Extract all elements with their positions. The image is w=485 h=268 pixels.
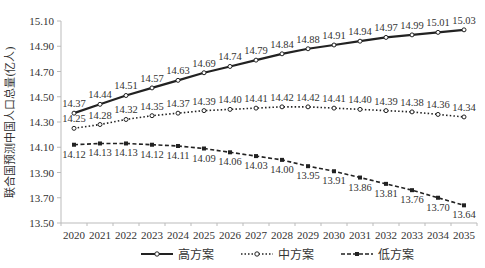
data-label: 14.39 — [192, 96, 216, 107]
x-tick-label: 2034 — [427, 229, 450, 241]
data-point — [332, 106, 336, 110]
data-label: 14.13 — [114, 147, 138, 158]
legend-label-low: 低方案 — [378, 245, 414, 262]
data-label: 14.57 — [140, 73, 164, 84]
data-label: 14.11 — [166, 150, 189, 161]
x-tick-label: 2022 — [115, 229, 137, 241]
x-axis: 2020202120222023202420252026202720282029… — [61, 223, 477, 241]
data-label: 14.03 — [244, 160, 268, 171]
x-tick-label: 2027 — [245, 229, 268, 241]
y-tick-label: 13.90 — [29, 167, 54, 179]
data-point — [462, 203, 466, 207]
data-point — [254, 58, 258, 62]
data-point — [98, 141, 102, 145]
data-point — [410, 33, 414, 37]
x-tick-label: 2031 — [349, 229, 371, 241]
data-label: 14.79 — [244, 45, 268, 56]
data-label: 13.76 — [400, 194, 424, 205]
series-low: 14.1214.1314.1314.1214.1114.0914.0614.03… — [62, 141, 476, 220]
data-point — [98, 123, 102, 127]
x-tick-label: 2033 — [401, 229, 424, 241]
series-layer: 14.3714.4414.5114.5714.6314.6914.7414.79… — [62, 15, 476, 220]
x-tick-label: 2026 — [219, 229, 242, 241]
x-tick-label: 2030 — [323, 229, 346, 241]
data-point — [358, 176, 362, 180]
data-label: 14.84 — [270, 39, 294, 50]
data-point — [306, 164, 310, 168]
data-label: 14.94 — [348, 26, 372, 37]
x-tick-label: 2020 — [63, 229, 86, 241]
legend: 高方案 中方案 低方案 — [140, 245, 414, 262]
data-point — [228, 150, 232, 154]
data-point — [72, 126, 76, 130]
data-label: 13.70 — [426, 202, 450, 213]
data-label: 14.35 — [140, 101, 164, 112]
data-point — [358, 107, 362, 111]
x-tick-label: 2035 — [453, 229, 476, 241]
y-tick-label: 14.70 — [29, 66, 54, 78]
data-label: 13.86 — [348, 182, 372, 193]
data-label: 14.06 — [218, 156, 242, 167]
data-label: 14.37 — [166, 98, 190, 109]
data-point — [384, 109, 388, 113]
y-tick-label: 15.10 — [29, 15, 54, 27]
data-label: 13.95 — [296, 170, 320, 181]
data-point — [280, 52, 284, 56]
data-label: 14.37 — [62, 98, 86, 109]
data-label: 14.51 — [114, 80, 138, 91]
data-label: 14.12 — [140, 149, 164, 160]
data-label: 14.12 — [62, 149, 86, 160]
line-chart: 15.1014.9014.7014.5014.3014.1013.9013.70… — [0, 0, 485, 268]
y-axis: 15.1014.9014.7014.5014.3014.1013.9013.70… — [29, 15, 61, 229]
data-label: 14.42 — [270, 92, 294, 103]
y-tick-label: 13.70 — [29, 192, 54, 204]
data-label: 14.13 — [88, 147, 112, 158]
solid-line-circle-icon — [140, 249, 174, 259]
data-point — [462, 115, 466, 119]
data-point — [202, 109, 206, 113]
y-tick-label: 13.50 — [29, 217, 54, 229]
legend-label-high: 高方案 — [178, 245, 214, 262]
data-point — [124, 93, 128, 97]
data-label: 14.28 — [88, 110, 112, 121]
data-label: 14.40 — [348, 94, 372, 105]
data-point — [124, 117, 128, 121]
dashed-line-square-icon — [340, 249, 374, 259]
data-label: 14.25 — [62, 113, 86, 124]
data-label: 15.03 — [452, 15, 476, 26]
x-tick-label: 2023 — [141, 229, 164, 241]
data-label: 14.91 — [322, 30, 346, 41]
data-label: 14.74 — [218, 51, 242, 62]
y-axis-label: 联合国预测中国人口总量(亿人) — [3, 46, 17, 198]
y-tick-label: 14.10 — [29, 141, 54, 153]
data-point — [72, 143, 76, 147]
data-point — [332, 169, 336, 173]
data-label: 14.09 — [192, 153, 216, 164]
data-point — [150, 114, 154, 118]
x-tick-label: 2024 — [167, 229, 190, 241]
data-point — [280, 158, 284, 162]
data-label: 14.99 — [400, 20, 424, 31]
data-point — [150, 86, 154, 90]
data-label: 14.34 — [452, 102, 476, 113]
data-label: 14.41 — [322, 93, 346, 104]
data-label: 13.81 — [374, 188, 398, 199]
data-point — [150, 143, 154, 147]
data-label: 14.42 — [296, 92, 320, 103]
data-point — [384, 182, 388, 186]
data-label: 14.38 — [400, 97, 424, 108]
data-label: 14.69 — [192, 58, 216, 69]
data-label: 13.91 — [322, 175, 346, 186]
x-tick-label: 2032 — [375, 229, 397, 241]
legend-label-mid: 中方案 — [278, 245, 314, 262]
data-point — [462, 28, 466, 32]
y-tick-label: 14.90 — [29, 40, 54, 52]
data-label: 14.36 — [426, 99, 450, 110]
x-tick-label: 2025 — [193, 229, 216, 241]
data-label: 13.64 — [452, 209, 476, 220]
x-tick-label: 2028 — [271, 229, 294, 241]
data-label: 14.39 — [374, 96, 398, 107]
data-label: 14.40 — [218, 94, 242, 105]
data-point — [176, 144, 180, 148]
legend-item-high: 高方案 — [140, 245, 214, 262]
